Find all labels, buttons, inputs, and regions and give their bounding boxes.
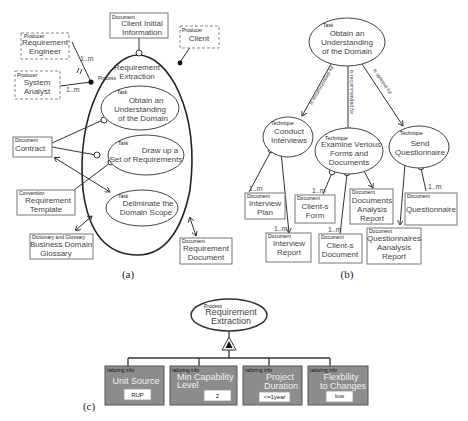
svg-text:Forms and: Forms and: [330, 149, 368, 158]
doc-documents-analysis-report[interactable]: Document Documents Analysis Report: [350, 189, 393, 224]
task-obtain-understanding-b[interactable]: Task Obtain an Understanding of the Doma…: [309, 18, 385, 66]
glossary-business-domain[interactable]: Dictionary and Glossary Business Domain …: [30, 234, 93, 259]
svg-text:Obtain an: Obtain an: [129, 96, 164, 105]
svg-text:Document: Document: [407, 193, 430, 199]
svg-text:Set of Requirements: Set of Requirements: [110, 155, 183, 164]
svg-text:of the Domain: of the Domain: [118, 114, 168, 123]
svg-text:Information: Information: [122, 28, 162, 37]
svg-text:Level: Level: [177, 380, 199, 390]
doc-questionnaires-analysis-report[interactable]: Document Questionnaires Aanalysis Report: [367, 228, 421, 264]
svg-text:RUP: RUP: [131, 392, 144, 398]
producer-system-analyst[interactable]: Producer System Analyst: [15, 71, 60, 99]
svg-text:Form: Form: [306, 211, 325, 220]
svg-text:Task: Task: [323, 22, 334, 28]
svg-text:Client-s: Client-s: [301, 202, 328, 211]
svg-text:Examine Verious: Examine Verious: [321, 140, 381, 149]
svg-text:of the Domain: of the Domain: [322, 47, 372, 56]
svg-text:Producer: Producer: [182, 27, 203, 33]
svg-text:Documents: Documents: [352, 196, 392, 205]
task-draw-up-requirements[interactable]: Task Draw up a Set of Requirements: [108, 135, 184, 175]
doc-requirement-document[interactable]: Document Requirement Document: [180, 238, 232, 264]
doc-questionnaire[interactable]: Document Questionnaire: [405, 193, 457, 225]
caption-b: (b): [341, 268, 354, 281]
svg-text:Deliminate the: Deliminate the: [122, 199, 174, 208]
technique-examine-forms-documents[interactable]: Technique Examine Verious Forms and Docu…: [315, 128, 383, 174]
mult-interview-report: 1..m: [274, 225, 288, 232]
svg-text:Obtain an: Obtain an: [330, 29, 365, 38]
mult-clients-document: 1..m: [328, 226, 342, 233]
svg-text:Document: Document: [322, 250, 359, 259]
doc-clients-form[interactable]: Document Client-s Form: [295, 195, 335, 223]
svg-text:Plan: Plan: [257, 208, 273, 217]
svg-text:Task: Task: [118, 140, 129, 146]
svg-text:Understanding: Understanding: [114, 105, 166, 114]
svg-text:Analysis: Analysis: [357, 205, 387, 214]
tailoring-unit-source[interactable]: tailoring info Unit Source RUP: [105, 366, 164, 405]
caption-a: (a): [122, 268, 135, 281]
svg-text:Conduct: Conduct: [274, 127, 305, 136]
doc-clients-document[interactable]: Document Client-s Document: [319, 234, 362, 263]
svg-text:Duration: Duration: [264, 381, 298, 391]
mult-clients-form: 1..m: [312, 187, 326, 194]
svg-text:Document: Document: [15, 137, 38, 143]
task-deliminate-domain-scope[interactable]: Task Deliminate the Domain Scope: [106, 190, 178, 226]
doc-client-initial-information[interactable]: Document Client Initial Information: [110, 13, 168, 38]
task-obtain-understanding[interactable]: Task Obtain an Understanding of the Doma…: [101, 86, 179, 130]
convention-requirement-template[interactable]: Convention Requirement Template: [17, 190, 75, 215]
technique-send-questionnaire[interactable]: Technique Send Questionnaire: [389, 126, 449, 168]
svg-text:Contract: Contract: [15, 144, 46, 153]
technique-conduct-interviews[interactable]: Technique Conduct Interviews: [263, 117, 313, 157]
svg-text:Understanding: Understanding: [321, 38, 373, 47]
svg-text:Process: Process: [98, 75, 117, 81]
svg-text:Report: Report: [277, 248, 302, 257]
svg-text:Domain Scope: Domain Scope: [120, 208, 173, 217]
svg-text:Questionnaire: Questionnaire: [406, 205, 456, 214]
svg-text:Send: Send: [411, 139, 430, 148]
svg-text:low: low: [335, 393, 345, 399]
svg-text:Document: Document: [297, 195, 320, 201]
process-requirement-extraction-c[interactable]: Process Requirement Extraction: [191, 299, 267, 331]
svg-text:System: System: [24, 78, 51, 87]
svg-text:Client Initial: Client Initial: [121, 19, 163, 28]
caption-c: (c): [83, 400, 96, 413]
tailoring-min-capability-level[interactable]: tailoring info Min Capability Level 2: [170, 366, 237, 405]
svg-text:Draw up a: Draw up a: [142, 146, 179, 155]
svg-text:Extraction: Extraction: [211, 316, 251, 326]
producer-client[interactable]: Producer Client: [180, 26, 219, 48]
svg-text:Questionnaire: Questionnaire: [395, 148, 445, 157]
svg-text:Requirement: Requirement: [25, 196, 72, 205]
svg-text:Documents: Documents: [329, 158, 369, 167]
svg-text:Analyst: Analyst: [24, 87, 51, 96]
svg-text:Template: Template: [30, 205, 63, 214]
port-client-info: [136, 50, 142, 56]
tailoring-project-duration[interactable]: tailoring info Project Duration <=1year: [243, 366, 302, 405]
svg-text:Client: Client: [189, 34, 210, 43]
mult-engineer: 1..m: [80, 55, 94, 62]
svg-text:Technique: Technique: [400, 130, 423, 136]
svg-text:Questionnaires: Questionnaires: [367, 234, 421, 243]
doc-contract[interactable]: Document Contract: [13, 137, 52, 157]
panel-a: 1..m 1..m Document Client Initial Inform…: [13, 13, 232, 281]
svg-text:Engineer: Engineer: [29, 47, 61, 56]
relation-label: is optional for: [372, 67, 394, 95]
svg-text:Document: Document: [188, 253, 225, 262]
mult-interview-plan: 1..m: [249, 185, 263, 192]
svg-text:tailoring info: tailoring info: [107, 367, 134, 373]
svg-text:Report: Report: [382, 252, 407, 261]
process-requirement-extraction[interactable]: Process Requirement Extraction: [98, 63, 161, 81]
mult-questionnaire: 1..m: [428, 183, 442, 190]
svg-text:Interviews: Interviews: [271, 136, 307, 145]
tailoring-flexibility-to-changes[interactable]: tailoring info Flexbility to Changes low: [308, 366, 368, 405]
doc-interview-report[interactable]: Document Interview Report: [266, 233, 311, 262]
relation-label: is recommended for: [349, 70, 355, 115]
svg-text:Technique: Technique: [271, 120, 294, 126]
port-client: [178, 61, 183, 66]
producer-requirement-engineer[interactable]: Producer Requirement Engineer: [21, 33, 69, 59]
svg-text:Requirement: Requirement: [183, 244, 230, 253]
doc-interview-plan[interactable]: Document Interview Plan: [245, 193, 285, 219]
port-producer: [88, 79, 93, 84]
svg-text:to Changes: to Changes: [320, 381, 367, 391]
svg-text:Unit Source: Unit Source: [112, 376, 159, 386]
svg-text:Interview: Interview: [249, 199, 281, 208]
svg-text:Requirement: Requirement: [22, 38, 69, 47]
